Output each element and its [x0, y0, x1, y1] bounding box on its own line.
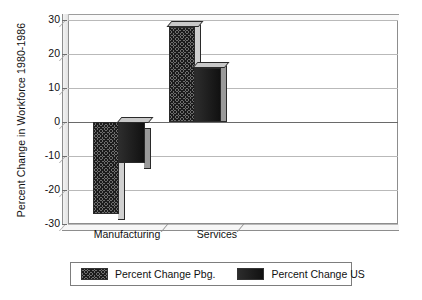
- ytick-mark-10: [62, 88, 67, 89]
- legend-swatch-hatched-icon: [81, 268, 108, 280]
- bar-services-us: [195, 68, 221, 122]
- gridline-10: [68, 88, 398, 89]
- gridline-30: [68, 20, 398, 21]
- xtick-label-services: Services: [172, 228, 262, 240]
- legend-label-pbg: Percent Change Pbg.: [115, 268, 215, 280]
- chart-legend: Percent Change Pbg. Percent Change US: [70, 262, 352, 286]
- gridline-neg30: [68, 224, 398, 225]
- ytick-label-30: 30: [30, 13, 60, 25]
- ytick-label-neg10: -10: [30, 149, 60, 161]
- bar-top-services-us: [192, 62, 229, 68]
- bar-top-manufacturing-us: [116, 117, 153, 123]
- ytick-label-20: 20: [30, 47, 60, 59]
- ytick-mark-20: [62, 54, 67, 55]
- gridline-20: [68, 54, 398, 55]
- bar-top-services-pbg: [166, 21, 203, 27]
- legend-item-pbg: Percent Change Pbg.: [81, 268, 215, 280]
- legend-label-us: Percent Change US: [271, 268, 364, 280]
- bar-manufacturing-pbg: [93, 122, 119, 214]
- ytick-mark-30: [62, 20, 67, 21]
- ytick-mark-neg30: [62, 224, 67, 225]
- ytick-label-10: 10: [30, 81, 60, 93]
- ytick-label-neg20: -20: [30, 183, 60, 195]
- legend-item-us: Percent Change US: [237, 268, 364, 280]
- ytick-label-neg30: -30: [30, 217, 60, 229]
- ytick-mark-neg20: [62, 190, 67, 191]
- legend-swatch-solid-icon: [237, 268, 264, 280]
- ytick-mark-neg10: [62, 156, 67, 157]
- bar-manufacturing-us: [119, 122, 145, 163]
- y-axis-tick-labels: 30 20 10 0 -10 -20 -30: [28, 0, 60, 300]
- bar-side-manufacturing-us: [144, 128, 151, 169]
- bar-side-services-us: [220, 62, 227, 122]
- bar-chart: Percent Change in Workforce 1980-1986 30…: [0, 0, 422, 300]
- xtick-label-manufacturing: Manufacturing: [72, 228, 182, 240]
- y-axis-title: Percent Change in Workforce 1980-1986: [15, 5, 27, 235]
- bar-services-pbg: [169, 27, 195, 122]
- ytick-label-0: 0: [30, 115, 60, 127]
- ytick-mark-0: [62, 122, 67, 123]
